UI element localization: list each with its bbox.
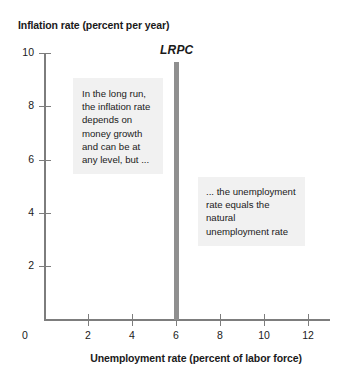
x-tick-label: 4 [119,329,145,341]
x-tick-mark [308,314,309,326]
x-axis-title: Unemployment rate (percent of labor forc… [0,352,350,364]
y-tick-label: 6 [8,153,34,165]
lrpc-curve [174,62,179,320]
y-tick-mark [39,106,51,107]
y-axis-line [44,53,46,321]
y-tick-mark [39,266,51,267]
x-tick-label: 6 [163,329,189,341]
axis-origin-label: 0 [22,329,28,341]
x-tick-label: 8 [207,329,233,341]
phillips-curve-figure: Inflation rate (percent per year) 0 10 8… [0,0,350,376]
y-tick-mark [39,160,51,161]
x-tick-mark [220,314,221,326]
x-tick-mark [132,314,133,326]
annotation-natural-unemployment: ... the unemployment rate equals the nat… [198,177,305,246]
x-tick-label: 10 [251,329,277,341]
x-tick-label: 12 [295,329,321,341]
y-tick-mark [39,213,51,214]
annotation-long-run-inflation: In the long run, the inflation rate depe… [73,78,163,174]
y-tick-label: 8 [8,99,34,111]
lrpc-curve-label: LRPC [160,43,193,57]
y-tick-mark [39,53,51,54]
y-axis-title: Inflation rate (percent per year) [18,19,169,31]
x-tick-mark [264,314,265,326]
x-axis-line [44,319,330,321]
x-tick-label: 2 [75,329,101,341]
y-tick-label: 10 [8,46,34,58]
y-tick-label: 2 [8,259,34,271]
x-tick-mark [88,314,89,326]
y-tick-label: 4 [8,206,34,218]
